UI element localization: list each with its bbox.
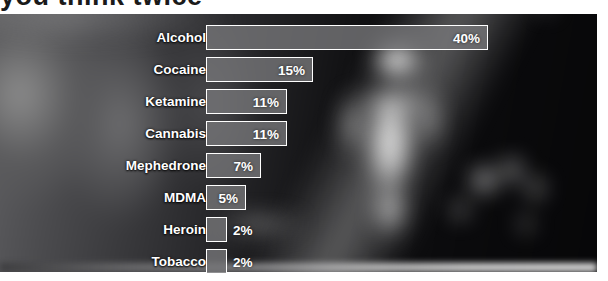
bar-value-label: 11% [253, 90, 279, 115]
bar: 15% [206, 57, 313, 82]
bar-value-label: 40% [453, 26, 480, 51]
bar-row: Cannabis11% [0, 120, 597, 147]
category-label: Alcohol [157, 24, 207, 51]
bar: 11% [206, 121, 287, 146]
bar-row: Mephedrone7% [0, 152, 597, 179]
category-label: Ketamine [145, 88, 206, 115]
cut-off-headline-text: you think twice [0, 0, 310, 13]
bar-row: Alcohol40% [0, 24, 597, 51]
bar-row: Tobacco2% [0, 248, 597, 275]
bar-value-label: 5% [218, 186, 238, 211]
bar-row: Ketamine11% [0, 88, 597, 115]
bar-row: Cocaine15% [0, 56, 597, 83]
bar-row: Heroin2% [0, 216, 597, 243]
bar: 2% [206, 249, 227, 274]
bar: 40% [206, 25, 488, 50]
bar-value-label: 11% [253, 122, 279, 147]
bar: 2% [206, 217, 227, 242]
horizontal-bar-chart: Alcohol40%Cocaine15%Ketamine11%Cannabis1… [0, 14, 597, 272]
bar-row: MDMA5% [0, 184, 597, 211]
infographic-stage: you think twice Alcohol40%Cocaine15%Keta… [0, 0, 608, 281]
category-label: Heroin [163, 216, 206, 243]
bar-value-label: 2% [233, 218, 253, 243]
category-label: Mephedrone [126, 152, 206, 179]
bar: 7% [206, 153, 261, 178]
category-label: Tobacco [151, 248, 206, 275]
bar-value-label: 15% [278, 58, 305, 83]
category-label: Cocaine [153, 56, 206, 83]
bar: 5% [206, 185, 246, 210]
category-label: Cannabis [145, 120, 206, 147]
category-label: MDMA [164, 184, 206, 211]
bar-value-label: 7% [233, 154, 253, 179]
bar: 11% [206, 89, 287, 114]
bar-value-label: 2% [233, 250, 253, 275]
